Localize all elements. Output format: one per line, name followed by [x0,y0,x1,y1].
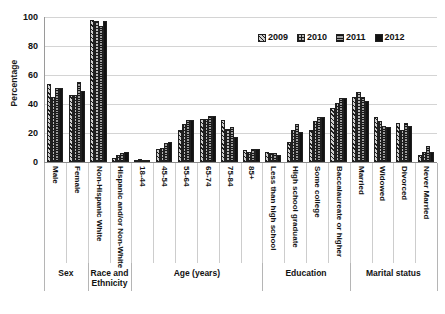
group-separator [44,163,45,291]
legend-item[interactable]: 2010 [297,33,327,42]
category-separator [284,163,285,263]
x-axis-group-label: Age (years) [131,268,262,278]
legend-item[interactable]: 2011 [336,33,366,42]
category-separator [153,163,154,263]
category-separator [328,163,329,263]
category-separator [66,163,67,263]
legend-swatch [297,34,305,42]
legend-item[interactable]: 2009 [258,33,288,42]
category-separator [241,163,242,263]
category-separator [393,163,394,263]
legend-swatch [258,34,266,42]
legend-swatch [375,34,383,42]
category-separator [110,163,111,263]
legend: 2009201020112012 [258,33,405,42]
x-axis-group-label: Race and Ethnicity [88,268,132,288]
y-axis-tick-label: 20 [14,129,38,138]
group-separator [437,163,438,291]
y-axis-tick-label: 0 [14,158,38,167]
legend-item[interactable]: 2012 [375,33,405,42]
y-axis-tick-label: 40 [14,100,38,109]
y-axis-tick-label: 80 [14,42,38,51]
x-axis-group-label: Education [262,268,349,278]
category-separator [175,163,176,263]
category-separator [88,163,89,263]
y-axis-tick-label: 60 [14,71,38,80]
legend-swatch [336,34,344,42]
category-separator [219,163,220,263]
x-axis-group-label: Marital status [350,268,437,278]
x-axis-group-labels: SexRace and EthnicityAge (years)Educatio… [44,0,437,314]
legend-label: 2010 [307,33,327,42]
category-separator [306,163,307,263]
category-separator [131,163,132,263]
bar-chart: Percentage 020406080100 MaleFemaleNon-Hi… [0,0,445,314]
category-separator [197,163,198,263]
category-separator [350,163,351,263]
y-axis-tick-label: 100 [14,13,38,22]
legend-label: 2009 [268,33,288,42]
category-separator [372,163,373,263]
category-separator [262,163,263,263]
x-axis-group-label: Sex [44,268,88,278]
category-separator [415,163,416,263]
legend-label: 2011 [346,33,366,42]
legend-label: 2012 [385,33,405,42]
